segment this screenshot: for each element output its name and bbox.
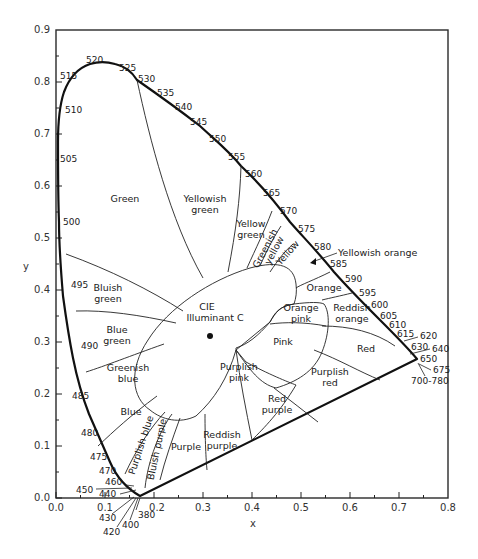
wavelength-label: 555 [228,152,245,162]
wavelength-label: 545 [190,117,207,127]
x-axis-title: x [250,518,256,529]
wavelength-label: 675 [433,365,450,375]
wavelength-label: 570 [280,206,297,216]
y-tick-label: 0.7 [34,128,50,139]
wavelength-label: 485 [72,391,89,401]
region-purplish-pink: pink [229,372,250,383]
region-red: Red [357,343,375,354]
y-tick-label: 0.9 [34,24,50,35]
wavelength-label: 560 [245,169,262,179]
region-orange-pink: pink [291,313,312,324]
wavelength-label: 460 [105,477,122,487]
x-tick-label: 0.5 [293,502,309,513]
wavelength-label: 490 [81,341,98,351]
y-tick-label: 0.0 [34,492,50,503]
region-greenish-blue: blue [118,373,139,384]
wavelength-label: 580 [314,242,331,252]
wavelength-label: 450 [76,485,93,495]
x-tick-label: 0.1 [97,502,113,513]
y-tick-label: 0.4 [34,284,50,295]
region-blue: Blue [120,406,141,417]
wavelength-label: 480 [81,428,98,438]
x-tick-label: 0.6 [342,502,358,513]
region-purplish-red: red [322,377,338,388]
region-yellow-green: Yellow [235,218,265,229]
wavelength-label: 550 [209,134,226,144]
region-reddish-orange: orange [335,313,369,324]
region-red-purple: Red [268,393,286,404]
x-tick-label: 0.4 [244,502,260,513]
x-tick-label: 0.3 [195,502,211,513]
wavelength-label: 640 [432,344,449,354]
region-bluish-green: green [94,293,121,304]
region-greenish-blue: Greenish [107,362,149,373]
y-tick-label: 0.1 [34,440,50,451]
y-tick-label: 0.3 [34,336,50,347]
region-reddish-orange: Reddish [333,302,371,313]
region-yellowish-orange: Yellowish orange [337,247,417,258]
wavelength-label: 535 [157,88,174,98]
y-axis-title: y [23,261,29,272]
region-red-purple: purple [262,404,293,415]
wavelength-label: 630 [411,342,428,352]
wavelength-label: 525 [119,63,136,73]
region-yellowish-green: green [191,204,218,215]
wavelength-label: 515 [60,71,77,81]
region-purplish-red: Purplish [311,366,349,377]
y-tick-label: 0.2 [34,388,50,399]
wavelength-label: 500 [63,217,80,227]
wavelength-label: 520 [86,55,103,65]
wavelength-label: 440 [99,489,116,499]
x-tick-label: 0.8 [440,502,456,513]
y-tick-label: 0.5 [34,232,50,243]
region-blue-green: green [103,335,130,346]
arrow-icon [310,258,316,265]
wavelength-label: 585 [330,259,347,269]
y-tick-label: 0.6 [34,180,50,191]
wavelength-label: 700-780 [411,376,449,386]
wavelength-label: 400 [122,520,139,530]
wavelength-label: 475 [90,452,107,462]
illuminant-label-line1: CIE [199,301,214,312]
region-blue-green: Blue [106,324,127,335]
region-orange-pink: Orange [283,302,318,313]
y-tick-label: 0.8 [34,76,50,87]
wavelength-label: 430 [99,513,116,523]
x-tick-label: 0.0 [48,502,64,513]
region-reddish-purple: purple [207,440,238,451]
region-yellowish-green: Yellowish [183,193,227,204]
cie-chromaticity-diagram: 0.0 0.1 0.2 0.3 0.4 0.5 0.6 0.7 0.8 x 0.… [0,0,478,559]
wavelength-label: 530 [138,74,155,84]
wavelength-label: 420 [103,527,120,537]
region-green: Green [111,193,140,204]
wavelength-label: 590 [345,274,362,284]
y-axis-labels: 0.0 0.1 0.2 0.3 0.4 0.5 0.6 0.7 0.8 0.9 … [23,24,50,503]
region-orange: Orange [306,282,341,293]
wavelength-label: 380 [138,510,155,520]
diagram-canvas: 0.0 0.1 0.2 0.3 0.4 0.5 0.6 0.7 0.8 x 0.… [0,0,478,559]
region-purple: Purple [171,441,201,452]
region-bluish-green: Bluish [94,282,123,293]
wavelength-label: 505 [60,154,77,164]
x-tick-label: 0.7 [391,502,407,513]
region-reddish-purple: Reddish [203,429,241,440]
wavelength-label: 470 [99,466,116,476]
wavelength-label: 650 [420,354,437,364]
wavelength-label: 495 [71,280,88,290]
wavelength-label: 575 [298,224,315,234]
region-pink: Pink [273,336,293,347]
wavelength-label: 540 [175,102,192,112]
wavelength-label: 615 [397,329,414,339]
wavelength-label: 510 [65,105,82,115]
wavelength-label: 600 [371,300,388,310]
wavelength-label: 595 [359,288,376,298]
wavelength-label: 565 [263,188,280,198]
wavelength-label: 620 [420,331,437,341]
illuminant-label-line2: Illuminant C [186,312,244,323]
region-purplish-pink: Purplish [220,361,258,372]
illuminant-c-point [207,333,213,339]
region-yellow-green: green [237,229,264,240]
